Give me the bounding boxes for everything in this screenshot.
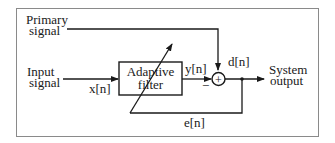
y-n-label: y[n] bbox=[185, 61, 207, 76]
system-output-label-line2: output bbox=[270, 73, 304, 88]
plus-sign: + bbox=[215, 73, 222, 87]
e-n-label: e[n] bbox=[184, 115, 205, 130]
minus-sign: − bbox=[202, 78, 209, 93]
adaptive-filter-diagram: Primary signal Input signal x[n] Adaptiv… bbox=[0, 0, 335, 143]
primary-signal-label-line2: signal bbox=[29, 23, 60, 38]
input-signal-label-line2: signal bbox=[29, 75, 60, 90]
d-n-label: d[n] bbox=[228, 54, 250, 69]
x-n-label: x[n] bbox=[89, 81, 111, 96]
